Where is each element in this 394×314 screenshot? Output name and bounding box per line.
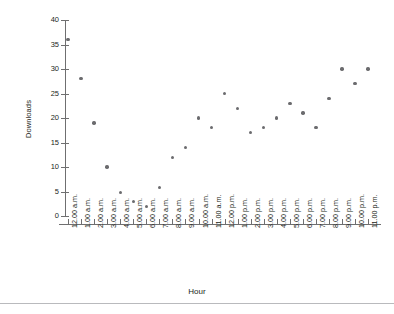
x-tick-label: 9.00 a.m.	[188, 198, 196, 228]
x-tick-label: 11.00 a.m.	[215, 195, 223, 228]
x-tick-label: 5.00 p.m.	[293, 198, 301, 228]
x-tick-mark	[316, 219, 317, 225]
data-point	[314, 126, 317, 129]
y-tick-mark	[61, 216, 69, 217]
y-tick-label: 35	[38, 41, 59, 49]
x-tick-label: 6.00 p.m.	[306, 198, 314, 228]
y-tick-mark	[61, 192, 69, 193]
x-tick-mark	[225, 219, 226, 225]
data-point	[132, 200, 135, 203]
x-tick-label: 1.00 p.m.	[241, 198, 249, 228]
y-tick-label-text: 40	[41, 16, 59, 24]
data-point	[288, 102, 291, 105]
x-tick-mark	[107, 219, 108, 225]
data-point	[145, 205, 148, 208]
x-tick-label: 3.00 a.m.	[110, 198, 118, 228]
y-tick-label: 0	[38, 212, 59, 220]
x-tick-mark	[212, 219, 213, 225]
x-tick-label: 5.00 a.m.	[136, 198, 144, 228]
y-tick-label: 15	[38, 139, 59, 147]
x-tick-label: 9.00 p.m.	[345, 198, 353, 228]
x-tick-label: 8.00 p.m.	[332, 198, 340, 228]
x-tick-label: 12.00 a.m.	[71, 194, 79, 228]
y-tick-label-text: 30	[41, 65, 59, 73]
y-tick-label-text: 10	[41, 163, 59, 171]
x-tick-mark	[355, 219, 356, 225]
x-tick-mark	[329, 219, 330, 225]
y-tick-mark	[61, 143, 69, 144]
x-tick-mark	[342, 219, 343, 225]
x-tick-label: 3.00 p.m.	[267, 198, 275, 228]
y-tick-mark	[61, 167, 69, 168]
data-point	[119, 191, 122, 194]
x-tick-label: 7.00 p.m.	[319, 198, 327, 228]
data-point	[197, 116, 200, 119]
downloads-by-hour-scatter-chart: Downloads 0510152025303540 12.00 a.m.1.0…	[0, 0, 394, 314]
data-point	[353, 82, 356, 85]
x-tick-mark	[199, 219, 200, 225]
x-tick-label: 6.00 a.m.	[149, 198, 157, 228]
data-point	[223, 92, 226, 95]
data-point	[262, 126, 265, 129]
x-tick-mark	[81, 219, 82, 225]
x-tick-label: 4.00 p.m.	[280, 198, 288, 228]
data-point	[79, 77, 82, 80]
y-tick-label: 40	[38, 16, 59, 24]
x-axis-title: Hour	[0, 287, 394, 296]
y-tick-label-text: 15	[41, 139, 59, 147]
footer-divider	[0, 303, 394, 304]
x-tick-label: 2.00 p.m.	[254, 198, 262, 228]
data-point	[105, 165, 108, 168]
y-tick-label: 30	[38, 65, 59, 73]
data-point	[249, 131, 252, 134]
y-tick-mark	[61, 69, 69, 70]
x-tick-mark	[251, 219, 252, 225]
data-point	[236, 107, 239, 110]
y-tick-label: 10	[38, 163, 59, 171]
y-tick-label-text: 0	[41, 212, 59, 220]
data-point	[210, 126, 213, 129]
y-tick-label: 5	[38, 188, 59, 196]
x-tick-mark	[290, 219, 291, 225]
x-tick-mark	[368, 219, 369, 225]
y-tick-mark	[61, 20, 69, 21]
x-tick-label: 10.00 a.m.	[202, 194, 210, 228]
data-point	[158, 186, 161, 189]
data-point	[184, 146, 187, 149]
x-tick-mark	[303, 219, 304, 225]
data-point	[92, 121, 95, 124]
x-tick-mark	[277, 219, 278, 225]
y-tick-label-text: 25	[41, 90, 59, 98]
y-tick-mark	[61, 94, 69, 95]
data-point	[171, 156, 174, 159]
data-point	[340, 67, 343, 70]
data-point	[366, 67, 369, 70]
y-tick-label: 20	[38, 114, 59, 122]
y-tick-label-text: 35	[41, 41, 59, 49]
y-tick-label: 25	[38, 90, 59, 98]
data-point	[327, 97, 330, 100]
data-point	[301, 111, 304, 114]
x-tick-label: 2.00 a.m.	[97, 198, 105, 228]
data-point	[275, 116, 278, 119]
x-tick-label: 1.00 a.m.	[84, 198, 92, 228]
x-tick-label: 12.00 p.m.	[228, 194, 236, 228]
y-tick-label-text: 20	[41, 114, 59, 122]
x-tick-label: 7.00 a.m.	[162, 198, 170, 228]
x-tick-label: 11.00 p.m.	[371, 195, 379, 228]
x-tick-mark	[68, 219, 69, 225]
x-tick-label: 8.00 a.m.	[175, 198, 183, 228]
x-tick-mark	[264, 219, 265, 225]
x-tick-mark	[238, 219, 239, 225]
x-tick-label: 4.00 a.m.	[123, 198, 131, 228]
y-tick-mark	[61, 118, 69, 119]
y-tick-mark	[61, 45, 69, 46]
y-tick-label-text: 5	[41, 188, 59, 196]
x-tick-label: 10.00 p.m.	[358, 194, 366, 228]
data-point	[66, 38, 69, 41]
y-axis-title: Downloads	[24, 84, 33, 154]
x-tick-mark	[94, 219, 95, 225]
